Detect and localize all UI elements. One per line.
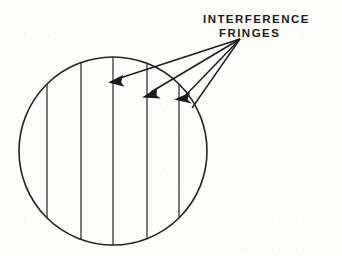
figure-canvas <box>0 0 342 256</box>
arrowhead-3-icon <box>174 93 192 104</box>
fringes-group <box>47 57 179 245</box>
leader-arrows-group <box>108 39 240 108</box>
arrowhead-2-icon <box>142 88 161 99</box>
label-fringes: FRINGES <box>219 28 280 40</box>
interference-fringes-figure: INTERFERENCE FRINGES <box>0 0 342 256</box>
leader-line-3-extension <box>192 39 240 108</box>
label-interference: INTERFERENCE <box>203 14 310 26</box>
arrowhead-1-icon <box>108 75 125 87</box>
